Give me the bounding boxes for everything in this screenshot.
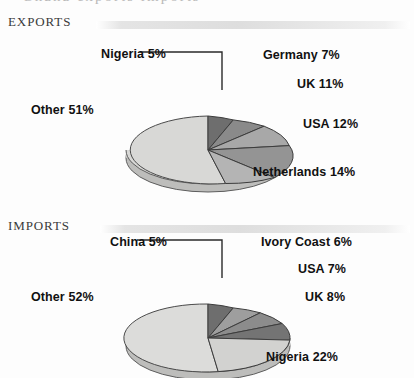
section-title-exports: EXPORTS <box>8 14 71 30</box>
slice-label-netherlands: Netherlands 14% <box>253 165 355 179</box>
slice-label-other: Other 51% <box>31 103 94 117</box>
slice-label-usa-imports: USA 7% <box>298 262 346 276</box>
slice-label-china: China 5% <box>110 235 167 249</box>
slice-label-nigeria-imports: Nigeria 22% <box>266 350 338 364</box>
cropped-title-text: Ghana exports imports <box>22 0 201 5</box>
pie-chart-exports: Nigeria 5% Germany 7% UK 11% USA 12% Net… <box>0 32 414 202</box>
slice-label-usa: USA 12% <box>303 117 358 131</box>
cropped-title-remnant: Ghana exports imports <box>0 0 414 9</box>
slice-label-nigeria: Nigeria 5% <box>101 47 166 61</box>
slice-label-uk: UK 11% <box>297 77 343 91</box>
header-rule-exports <box>96 21 410 29</box>
slice-label-uk-imports: UK 8% <box>305 290 345 304</box>
infographic-page: Ghana exports imports EXPORTS <box>0 0 414 378</box>
section-header-exports: EXPORTS <box>0 14 414 32</box>
slice-label-germany: Germany 7% <box>263 48 340 62</box>
slice-label-other-imports: Other 52% <box>31 290 94 304</box>
slice-label-ivory-coast: Ivory Coast 6% <box>261 235 352 249</box>
pie-chart-imports: China 5% Ivory Coast 6% USA 7% UK 8% Nig… <box>0 228 414 378</box>
